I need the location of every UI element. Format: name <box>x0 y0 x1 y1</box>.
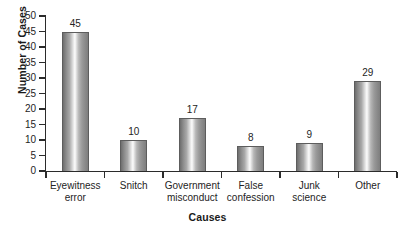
bar-value-label: 17 <box>169 105 215 115</box>
y-tick-label: 20 <box>12 104 36 114</box>
y-tick-label: 0 <box>12 166 36 176</box>
bar <box>120 140 147 171</box>
y-tick-label: 15 <box>12 120 36 130</box>
y-tick-label: 25 <box>12 89 36 99</box>
x-tick-mark <box>104 172 105 178</box>
bar-value-label: 8 <box>228 133 274 143</box>
x-tick-mark <box>338 172 339 178</box>
y-tick-mark <box>39 124 45 125</box>
category-label-line2: error <box>37 192 113 204</box>
y-tick-label: 50 <box>12 11 36 21</box>
category-label: Other <box>330 180 406 192</box>
bar <box>237 146 264 171</box>
bar-chart: Number of Cases 05101520253035404550 Eye… <box>0 0 415 232</box>
category-label-line1: Government <box>165 180 220 191</box>
y-tick-mark <box>39 46 45 47</box>
x-tick-mark <box>396 172 397 178</box>
y-tick-mark <box>39 170 45 171</box>
y-tick-label: 10 <box>12 135 36 145</box>
x-tick-mark <box>221 172 222 178</box>
bar-value-label: 9 <box>286 130 332 140</box>
category-label-line1: False <box>239 180 263 191</box>
bar <box>62 32 89 172</box>
x-tick-mark <box>45 172 46 178</box>
y-tick-mark <box>39 93 45 94</box>
y-tick-mark <box>39 139 45 140</box>
y-tick-mark <box>39 108 45 109</box>
bar-value-label: 10 <box>111 127 157 137</box>
x-tick-mark <box>279 172 280 178</box>
category-label-line2: science <box>271 192 347 204</box>
y-tick-mark <box>39 15 45 16</box>
y-tick-mark <box>39 62 45 63</box>
category-label-line1: Snitch <box>120 180 148 191</box>
x-tick-mark <box>162 172 163 178</box>
bar-value-label: 45 <box>52 19 98 29</box>
category-label-line1: Junk <box>299 180 320 191</box>
y-tick-mark <box>39 31 45 32</box>
y-tick-label: 45 <box>12 27 36 37</box>
y-tick-label: 35 <box>12 58 36 68</box>
bar <box>354 81 381 171</box>
category-label-line1: Other <box>355 180 380 191</box>
y-tick-mark <box>39 155 45 156</box>
x-axis-title: Causes <box>0 211 415 223</box>
plot-area <box>46 16 397 171</box>
bar <box>296 143 323 171</box>
y-tick-label: 40 <box>12 42 36 52</box>
y-tick-label: 30 <box>12 73 36 83</box>
category-label-line1: Eyewitness <box>50 180 101 191</box>
bar-value-label: 29 <box>345 68 391 78</box>
y-tick-label: 5 <box>12 151 36 161</box>
y-tick-mark <box>39 77 45 78</box>
bar <box>179 118 206 171</box>
